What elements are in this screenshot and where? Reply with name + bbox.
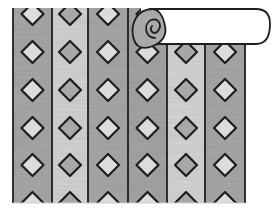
scroll-curl <box>133 9 166 48</box>
rolled-corner-scroll <box>133 6 275 48</box>
scroll-paper <box>149 9 270 44</box>
wallpaper-illustration <box>0 0 275 216</box>
